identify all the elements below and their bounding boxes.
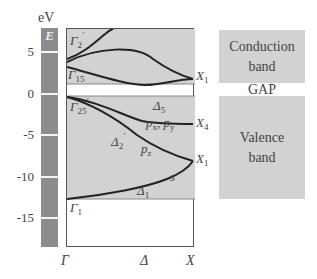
energy-bar-separator <box>41 93 58 95</box>
label-x4: X4 <box>196 115 208 132</box>
tick-label-5: 5 <box>6 44 34 60</box>
tick-label-minus5: -5 <box>6 127 34 143</box>
label-delta2-prime: Δ2′ <box>111 132 125 151</box>
tick-label-0: 0 <box>6 86 34 102</box>
label-gamma25-prime: Γ25′ <box>70 97 88 116</box>
energy-symbol: E <box>41 28 58 44</box>
label-delta1: Δ1 <box>137 183 149 200</box>
energy-bar-separator <box>41 51 58 53</box>
label-gamma15: Γ15 <box>68 67 84 84</box>
valence-band-label-line2: band <box>248 148 275 168</box>
tick-label-minus10: -10 <box>6 169 34 185</box>
label-delta5: Δ5 <box>153 98 165 115</box>
energy-bar-separator <box>41 134 58 136</box>
conduction-band-box: Conduction band <box>219 30 305 83</box>
valence-band-box: Valence band <box>219 96 305 199</box>
energy-bar-separator <box>41 217 58 219</box>
energy-bar <box>41 28 58 247</box>
k-label-delta: Δ <box>140 253 148 269</box>
label-gamma2-prime: Γ2′ <box>70 31 84 50</box>
energy-unit-label: eV <box>38 10 54 26</box>
label-gamma1: Γ1 <box>70 200 82 217</box>
valence-band-label-line1: Valence <box>240 128 284 148</box>
energy-bar-separator <box>41 176 58 178</box>
label-s: s <box>170 169 175 185</box>
tick-label-minus15: -15 <box>6 210 34 226</box>
label-x1-conduction: X1 <box>196 68 208 85</box>
label-pz: pz <box>141 141 152 158</box>
k-label-gamma: Γ <box>61 253 69 269</box>
band-structure-plot: Γ2′ Γ15 Γ25′ Γ1 Δ5 px, py Δ2′ pz s Δ1 <box>66 28 194 247</box>
conduction-band-label-line1: Conduction <box>229 37 294 57</box>
band-curves <box>67 29 195 248</box>
k-label-x: X <box>186 253 195 269</box>
conduction-band-label-line2: band <box>248 57 275 77</box>
label-pxpy: px, py <box>146 115 175 132</box>
label-x1-valence: X1 <box>196 151 208 168</box>
